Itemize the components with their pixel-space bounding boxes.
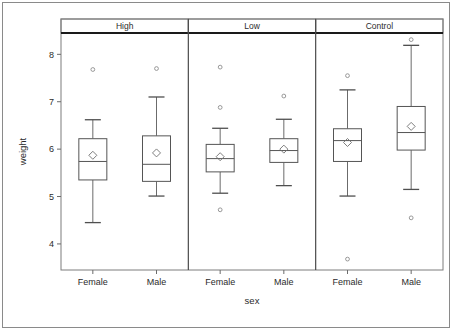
boxplot-high-male	[143, 67, 171, 196]
panel-header-label: High	[116, 21, 134, 31]
panel-control: ControlFemaleMale	[316, 19, 443, 287]
outlier-point	[282, 94, 286, 98]
panel-high: HighFemaleMale	[61, 19, 188, 287]
boxplot-control-male	[397, 38, 425, 220]
y-tick-label: 5	[49, 192, 54, 202]
chart-root: 45678weightHighFemaleMaleLowFemaleMaleCo…	[0, 0, 454, 331]
box-iqr	[397, 106, 425, 150]
outlier-point	[346, 257, 350, 261]
x-tick-label: Female	[78, 277, 108, 287]
x-tick-label: Male	[274, 277, 294, 287]
boxplot-low-female	[206, 65, 234, 211]
y-tick-label: 7	[49, 97, 54, 107]
y-axis-title: weight	[17, 137, 28, 166]
x-tick-label: Female	[205, 277, 235, 287]
outlier-point	[409, 38, 413, 42]
panel-header-label: Control	[366, 21, 394, 31]
boxplot-low-male	[270, 94, 298, 185]
x-tick-label: Male	[401, 277, 421, 287]
outlier-point	[155, 67, 159, 71]
plot-frame	[61, 19, 443, 270]
outlier-point	[346, 74, 350, 78]
y-tick-label: 6	[49, 144, 54, 154]
x-axis-title: sex	[245, 295, 260, 306]
box-iqr	[143, 136, 171, 182]
outlier-point	[218, 208, 222, 212]
boxplot-svg: 45678weightHighFemaleMaleLowFemaleMaleCo…	[0, 0, 454, 331]
panel-header-label: Low	[244, 21, 260, 31]
x-tick-label: Male	[147, 277, 167, 287]
outlier-point	[91, 68, 95, 72]
y-tick-label: 8	[49, 50, 54, 60]
y-axis: 45678weight	[17, 50, 61, 250]
box-iqr	[334, 129, 362, 162]
y-tick-label: 4	[49, 239, 54, 249]
outlier-point	[218, 106, 222, 110]
boxplot-high-female	[79, 68, 107, 223]
panel-low: LowFemaleMale	[188, 19, 315, 287]
outlier-point	[218, 65, 222, 69]
boxplot-control-female	[334, 74, 362, 261]
x-tick-label: Female	[332, 277, 362, 287]
outlier-point	[409, 216, 413, 220]
